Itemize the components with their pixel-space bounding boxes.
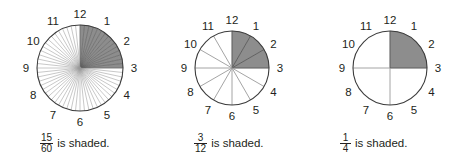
hour-label-1: 1 bbox=[104, 15, 110, 27]
hour-label-7: 7 bbox=[205, 104, 211, 116]
hour-label-7: 7 bbox=[50, 109, 56, 121]
hour-label-10: 10 bbox=[184, 38, 197, 50]
hour-label-8: 8 bbox=[30, 89, 36, 101]
hour-label-8: 8 bbox=[345, 86, 351, 98]
caption-text: is shaded. bbox=[355, 138, 407, 150]
fraction-denominator: 12 bbox=[194, 144, 207, 154]
fraction-clocks-figure: 1212345678910111560is shaded.12123456789… bbox=[0, 0, 458, 161]
fraction-numerator: 15 bbox=[40, 133, 53, 143]
hour-label-12: 12 bbox=[226, 14, 239, 26]
division-line bbox=[200, 50, 232, 69]
shaded-region-clock-60ths bbox=[80, 25, 123, 68]
hour-label-2: 2 bbox=[124, 35, 130, 47]
fraction-denominator: 60 bbox=[40, 144, 53, 154]
fraction-numerator: 3 bbox=[197, 133, 205, 143]
hour-label-6: 6 bbox=[387, 110, 393, 122]
hour-label-4: 4 bbox=[270, 86, 277, 98]
hour-label-11: 11 bbox=[47, 15, 59, 27]
caption-clock-12ths: 312is shaded. bbox=[194, 133, 264, 154]
hour-label-6: 6 bbox=[77, 116, 83, 128]
hour-label-4: 4 bbox=[124, 89, 131, 101]
caption-text: is shaded. bbox=[211, 138, 263, 150]
hour-label-5: 5 bbox=[411, 104, 417, 116]
fraction-clock-fourths: 14 bbox=[340, 133, 351, 154]
hour-label-8: 8 bbox=[187, 86, 193, 98]
hour-label-6: 6 bbox=[229, 110, 235, 122]
hour-label-5: 5 bbox=[104, 109, 110, 121]
hour-label-12: 12 bbox=[384, 14, 397, 26]
hour-label-9: 9 bbox=[181, 62, 187, 74]
division-line bbox=[214, 36, 233, 68]
division-line bbox=[80, 68, 97, 107]
hour-label-11: 11 bbox=[202, 20, 214, 32]
division-line bbox=[63, 68, 80, 107]
fraction-clock-12ths: 312 bbox=[194, 133, 207, 154]
clock-figure-clock-12ths: 121234567891011 bbox=[168, 4, 296, 132]
division-line bbox=[232, 68, 251, 100]
hour-label-7: 7 bbox=[363, 104, 369, 116]
division-line bbox=[41, 51, 80, 68]
hour-label-1: 1 bbox=[411, 20, 417, 32]
hour-label-3: 3 bbox=[277, 62, 283, 74]
hour-label-1: 1 bbox=[253, 20, 259, 32]
hour-label-5: 5 bbox=[253, 104, 259, 116]
caption-clock-fourths: 14is shaded. bbox=[340, 133, 407, 154]
hour-label-3: 3 bbox=[131, 62, 137, 74]
fraction-denominator: 4 bbox=[342, 144, 350, 154]
hour-label-4: 4 bbox=[428, 86, 435, 98]
fraction-numerator: 1 bbox=[342, 133, 350, 143]
division-line bbox=[80, 68, 119, 85]
clock-figure-clock-fourths: 121234567891011 bbox=[326, 4, 454, 132]
hour-label-2: 2 bbox=[270, 38, 276, 50]
fraction-clock-60ths: 1560 bbox=[40, 133, 53, 154]
caption-clock-60ths: 1560is shaded. bbox=[40, 133, 110, 154]
hour-label-3: 3 bbox=[435, 62, 441, 74]
hour-label-10: 10 bbox=[27, 35, 40, 47]
hour-label-2: 2 bbox=[428, 38, 434, 50]
hour-label-9: 9 bbox=[339, 62, 345, 74]
clock-figure-clock-60ths: 121234567891011 bbox=[10, 0, 150, 138]
caption-text: is shaded. bbox=[57, 138, 109, 150]
division-line bbox=[41, 68, 80, 85]
hour-label-9: 9 bbox=[23, 62, 29, 74]
hour-label-11: 11 bbox=[360, 20, 372, 32]
division-line bbox=[63, 29, 80, 68]
division-line bbox=[200, 68, 232, 87]
hour-label-12: 12 bbox=[74, 8, 87, 20]
hour-label-10: 10 bbox=[342, 38, 355, 50]
division-line bbox=[214, 68, 233, 100]
clock-diagram-clock-60ths: 121234567891011 bbox=[10, 0, 150, 138]
clock-diagram-clock-fourths: 121234567891011 bbox=[326, 4, 454, 132]
clock-diagram-clock-12ths: 121234567891011 bbox=[168, 4, 296, 132]
division-line bbox=[232, 68, 264, 87]
